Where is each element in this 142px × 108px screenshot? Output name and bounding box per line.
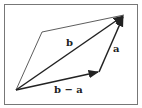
vector-diagram: b a b − a <box>0 0 142 108</box>
label-b: b <box>66 37 73 48</box>
label-a: a <box>113 43 120 54</box>
label-b-minus-a: b − a <box>54 84 83 95</box>
